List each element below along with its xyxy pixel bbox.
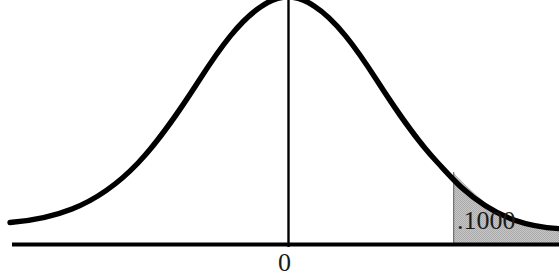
normal-curve: [10, 0, 559, 229]
distribution-plot-svg: [0, 0, 559, 278]
x-axis-zero-tick-label: 0: [278, 250, 291, 276]
shaded-area-probability-label: .1000: [457, 208, 516, 234]
normal-distribution-figure: 0 .1000: [0, 0, 559, 278]
